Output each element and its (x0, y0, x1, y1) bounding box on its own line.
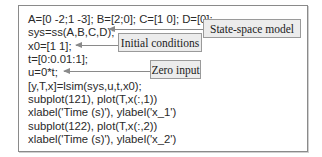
label-initial-conditions: Initial conditions (118, 33, 202, 52)
code-line-labels1: xlabel('Time (s)'), ylabel('x_1') (28, 106, 176, 119)
code-line-sys: sys=ss(A,B,C,D); (28, 26, 114, 39)
code-line-t: t=[0:0.01:1]; (28, 53, 88, 66)
code-line-x0: x0=[1 1]; (28, 40, 72, 53)
label-state-space-model: State-space model (203, 19, 301, 38)
arrow-state-space (109, 29, 204, 30)
code-line-u: u=0*t; (28, 66, 58, 79)
code-line-lsim: [y,T,x]=lsim(sys,u,t,x0); (28, 80, 142, 93)
code-line-matrices: A=[0 -2;1 -3]; B=[2;0]; C=[1 0]; D=[0]; (28, 13, 213, 26)
code-line-labels2: xlabel('Time (s)'), ylabel('x_2') (28, 133, 176, 146)
label-zero-input: Zero input (150, 60, 201, 79)
code-line-subplot1: subplot(121), plot(T,x(:,1)) (28, 93, 157, 106)
arrow-initial-conditions (76, 45, 119, 46)
code-line-subplot2: subplot(122), plot(T,x(:,2)) (28, 120, 157, 133)
arrow-zero-input (64, 71, 151, 72)
